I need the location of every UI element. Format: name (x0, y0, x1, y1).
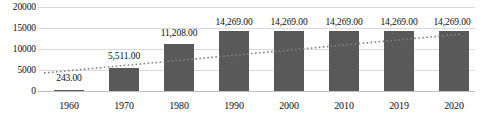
bar-2020 (439, 31, 469, 91)
x-axis-tick-1990: 1990 (224, 101, 244, 111)
bar-2000 (274, 31, 304, 91)
y-axis-tick: 5000 (0, 66, 36, 76)
gridline-zero (38, 91, 475, 92)
gridline-15000 (38, 28, 475, 29)
data-label-2000: 14,269.00 (270, 18, 307, 28)
data-label-1990: 14,269.00 (215, 18, 252, 28)
x-axis-tick-1980: 1980 (169, 101, 189, 111)
data-label-2019: 14,269.00 (380, 18, 417, 28)
gridline-20000 (38, 7, 475, 8)
bar-chart: 20000 15000 10000 5000 0 243.00 5,511.00… (0, 0, 483, 122)
y-axis-tick: 10000 (0, 45, 36, 55)
x-axis-tick-1970: 1970 (114, 101, 134, 111)
x-axis-tick-1960: 1960 (59, 101, 79, 111)
data-label-1970: 5,511.00 (108, 52, 140, 62)
data-label-2020: 14,269.00 (433, 18, 470, 28)
x-axis-tick-2020: 2020 (444, 101, 464, 111)
bar-2019 (384, 31, 414, 91)
bar-1980 (164, 44, 194, 91)
x-axis-tick-2000: 2000 (279, 101, 299, 111)
bar-1990 (219, 31, 249, 91)
data-label-1960: 243.00 (56, 74, 82, 84)
bar-1970 (109, 68, 139, 91)
x-axis-tick-2010: 2010 (334, 101, 354, 111)
data-label-2010: 14,269.00 (325, 18, 362, 28)
bar-1960 (54, 90, 84, 91)
bar-2010 (329, 31, 359, 91)
x-axis-tick-2019: 2019 (389, 101, 409, 111)
y-axis-tick: 20000 (0, 3, 36, 13)
y-axis: 20000 15000 10000 5000 0 (0, 0, 36, 122)
y-axis-tick: 15000 (0, 24, 36, 34)
data-label-1980: 11,208.00 (161, 29, 198, 39)
y-axis-tick: 0 (0, 87, 36, 97)
